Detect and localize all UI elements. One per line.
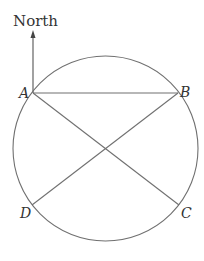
point-label-c: C [181,205,192,221]
chord-ac [33,93,179,205]
circle-chord-diagram: North A B C D [0,0,204,261]
point-label-b: B [179,84,190,100]
north-arrow-icon [31,30,36,93]
point-label-a: A [17,85,29,101]
north-label: North [13,12,58,30]
chord-bd [32,93,178,205]
point-label-d: D [19,205,31,221]
